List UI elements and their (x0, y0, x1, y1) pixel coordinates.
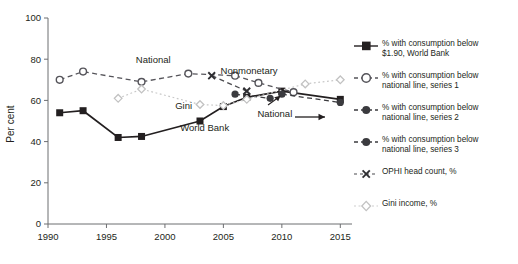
legend-label-line2: national line, series 2 (382, 113, 478, 123)
legend-marker-open-circle-dashed (352, 70, 382, 92)
x-tick-label: 2000 (154, 231, 175, 242)
plot-annotation: National (257, 108, 292, 119)
y-tick-label: 100 (25, 12, 41, 23)
legend-marker-filled-circle-dashed (352, 134, 382, 156)
plot-annotation: National (136, 54, 171, 65)
legend-item[interactable]: OPHI head count, % (352, 166, 518, 188)
plot-annotation: Nonmonetary (221, 65, 278, 76)
legend-label: OPHI head count, % (382, 166, 457, 177)
legend-label-line1: Gini income, % (382, 199, 437, 208)
legend-item[interactable]: % with consumption below national line, … (352, 102, 518, 124)
legend-marker-x-dashed (352, 166, 382, 188)
legend-label: % with consumption below $1.90, World Ba… (382, 38, 478, 60)
legend-marker-filled-circle-dashed (352, 102, 382, 124)
legend-label: % with consumption below national line, … (382, 70, 478, 92)
national-arrow-icon (295, 114, 325, 120)
x-tick-label: 1995 (96, 231, 117, 242)
legend-label: Gini income, % (382, 198, 437, 209)
legend-marker-filled-square-solid (352, 38, 382, 60)
plot-area: 020406080100199019952000200520102015 Nat… (0, 0, 360, 264)
y-tick-label: 60 (30, 95, 41, 106)
x-tick-label: 1990 (37, 231, 58, 242)
x-tick-label: 2015 (330, 231, 351, 242)
y-tick-label: 0 (36, 218, 41, 229)
legend: % with consumption below $1.90, World Ba… (352, 38, 518, 230)
series-open-diamond (114, 76, 344, 109)
legend-label-line2: $1.90, World Bank (382, 49, 478, 59)
legend-label-line1: % with consumption below (382, 39, 478, 48)
legend-label-line1: % with consumption below (382, 71, 478, 80)
legend-label: % with consumption below national line, … (382, 134, 478, 156)
y-axis-label: Per cent (5, 105, 16, 142)
legend-item[interactable]: % with consumption below national line, … (352, 70, 518, 92)
y-tick-label: 40 (30, 136, 41, 147)
legend-marker-open-diamond-dotted (352, 198, 382, 220)
legend-item[interactable]: Gini income, % (352, 198, 518, 220)
legend-item[interactable]: % with consumption below $1.90, World Ba… (352, 38, 518, 60)
legend-label-line1: OPHI head count, % (382, 167, 457, 176)
plot-annotation: World Bank (180, 122, 229, 133)
legend-label-line2: national line, series 3 (382, 145, 478, 155)
plot-annotation: Gini (175, 100, 192, 111)
chart-figure: 020406080100199019952000200520102015 Nat… (0, 0, 518, 264)
legend-label-line1: % with consumption below (382, 135, 478, 144)
legend-label: % with consumption below national line, … (382, 102, 478, 124)
x-tick-label: 2005 (213, 231, 234, 242)
x-tick-label: 2010 (271, 231, 292, 242)
y-tick-label: 80 (30, 54, 41, 65)
legend-item[interactable]: % with consumption below national line, … (352, 134, 518, 156)
plot-svg: 020406080100199019952000200520102015 Nat… (0, 0, 360, 264)
legend-label-line2: national line, series 1 (382, 81, 478, 91)
y-tick-label: 20 (30, 177, 41, 188)
legend-label-line1: % with consumption below (382, 103, 478, 112)
